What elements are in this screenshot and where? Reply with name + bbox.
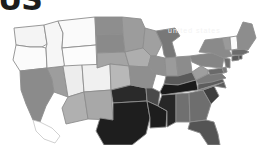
region-NM[interactable] [84, 90, 113, 120]
us-choropleth-map[interactable] [0, 0, 264, 145]
region-ND[interactable] [95, 17, 123, 35]
region-WA[interactable] [14, 25, 47, 47]
region-ME[interactable] [237, 22, 256, 50]
region-FL[interactable] [188, 120, 220, 145]
map-watermark: united states [168, 27, 221, 34]
region-RI[interactable] [239, 55, 242, 59]
region-MX-BC [33, 120, 60, 143]
region-MN[interactable] [122, 17, 145, 52]
region-AL[interactable] [176, 93, 190, 122]
region-NJ[interactable] [224, 58, 230, 68]
region-MT[interactable] [58, 17, 96, 48]
region-CA[interactable] [20, 68, 54, 122]
region-CT[interactable] [232, 55, 239, 61]
region-SD[interactable] [96, 34, 125, 53]
site-logo[interactable]: US [0, 0, 42, 15]
region-OR[interactable] [13, 45, 47, 71]
region-AZ[interactable] [62, 92, 88, 124]
us-map-svg[interactable] [0, 0, 264, 145]
map-canvas: united states US [0, 0, 264, 145]
region-CO[interactable] [82, 64, 111, 92]
